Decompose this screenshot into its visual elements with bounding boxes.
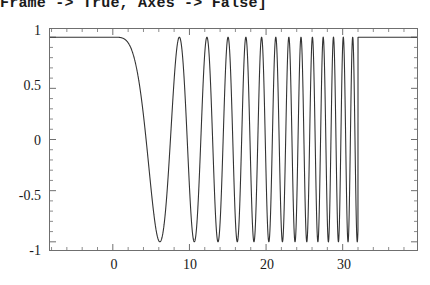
y-tick-label-neg1: -1 xyxy=(4,243,41,259)
y-tick-label-0_5: 0.5 xyxy=(8,78,41,94)
screenshot-root: Frame -> True, Axes -> False] 1 0.5 0 -0… xyxy=(0,0,430,285)
y-tick-label-0: 0 xyxy=(8,133,41,149)
y-axis-major-ticks xyxy=(50,37,417,242)
y-tick-label-neg0_5: -0.5 xyxy=(4,188,41,204)
x-tick-label-30: 30 xyxy=(332,257,356,273)
chirp-curve xyxy=(50,37,417,242)
y-tick-label-1: 1 xyxy=(8,23,41,39)
x-tick-label-10: 10 xyxy=(178,257,202,273)
x-tick-label-0: 0 xyxy=(104,257,124,273)
mathematica-code-line: Frame -> True, Axes -> False] xyxy=(0,0,430,15)
chirp-plot-svg xyxy=(50,29,417,250)
x-tick-label-20: 20 xyxy=(255,257,279,273)
plot-frame xyxy=(49,28,418,251)
y-axis-minor-ticks xyxy=(50,47,417,231)
